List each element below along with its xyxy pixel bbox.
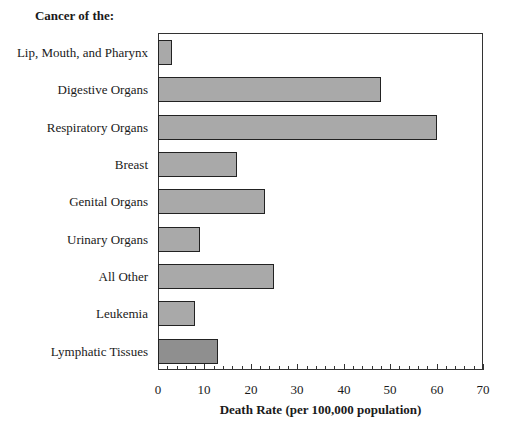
category-label: Lip, Mouth, and Pharynx	[17, 40, 148, 65]
major-tick	[483, 364, 484, 370]
category-label: All Other	[99, 264, 148, 289]
minor-tick	[242, 366, 243, 370]
category-label: Breast	[115, 152, 148, 177]
x-tick-label: 50	[375, 382, 405, 398]
minor-tick	[418, 366, 419, 370]
major-tick	[344, 364, 345, 370]
x-tick-label: 0	[143, 382, 173, 398]
major-tick	[437, 364, 438, 370]
minor-tick	[362, 366, 363, 370]
minor-tick	[325, 366, 326, 370]
bar-lymphatic-tissues	[158, 339, 218, 364]
x-tick-label: 70	[468, 382, 498, 398]
major-tick	[297, 364, 298, 370]
minor-tick	[353, 366, 354, 370]
minor-tick	[195, 366, 196, 370]
x-tick-label: 60	[422, 382, 452, 398]
minor-tick	[399, 366, 400, 370]
bar-urinary-organs	[158, 227, 200, 252]
x-tick-label: 40	[329, 382, 359, 398]
category-label: Lymphatic Tissues	[51, 339, 148, 364]
category-label: Genital Organs	[69, 189, 148, 214]
minor-tick	[427, 366, 428, 370]
x-tick-label: 10	[189, 382, 219, 398]
minor-tick	[214, 366, 215, 370]
minor-tick	[288, 366, 289, 370]
x-tick-label: 20	[236, 382, 266, 398]
category-label: Digestive Organs	[58, 77, 148, 102]
minor-tick	[464, 366, 465, 370]
bar-respiratory-organs	[158, 115, 437, 140]
bar-leukemia	[158, 301, 195, 326]
minor-tick	[474, 366, 475, 370]
x-tick-label: 30	[282, 382, 312, 398]
category-label: Urinary Organs	[67, 227, 148, 252]
bar-genital-organs	[158, 189, 265, 214]
major-tick	[158, 364, 159, 370]
major-tick	[390, 364, 391, 370]
minor-tick	[455, 366, 456, 370]
category-label: Leukemia	[96, 301, 148, 326]
y-axis-heading: Cancer of the:	[0, 8, 149, 24]
minor-tick	[279, 366, 280, 370]
major-tick	[251, 364, 252, 370]
minor-tick	[372, 366, 373, 370]
bar-all-other	[158, 264, 274, 289]
minor-tick	[269, 366, 270, 370]
minor-tick	[381, 366, 382, 370]
minor-tick	[232, 366, 233, 370]
minor-tick	[260, 366, 261, 370]
minor-tick	[446, 366, 447, 370]
bar-breast	[158, 152, 237, 177]
major-tick	[204, 364, 205, 370]
minor-tick	[316, 366, 317, 370]
minor-tick	[334, 366, 335, 370]
bar-digestive-organs	[158, 77, 381, 102]
x-axis-title: Death Rate (per 100,000 population)	[158, 402, 483, 418]
minor-tick	[409, 366, 410, 370]
minor-tick	[307, 366, 308, 370]
bar-lip-mouth-and-pharynx	[158, 40, 172, 65]
minor-tick	[186, 366, 187, 370]
minor-tick	[167, 366, 168, 370]
minor-tick	[177, 366, 178, 370]
minor-tick	[223, 366, 224, 370]
category-label: Respiratory Organs	[47, 115, 148, 140]
